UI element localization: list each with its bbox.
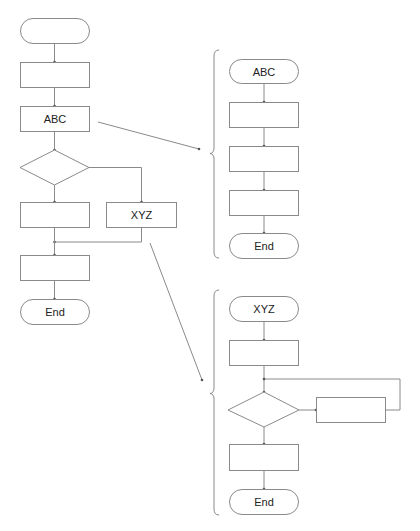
connector-xyz-merge <box>55 228 142 242</box>
node-label: ABC <box>44 113 67 125</box>
expand-xyz-arrow <box>150 243 202 380</box>
xyz-brace <box>210 290 219 515</box>
xyz-loop-process <box>316 397 386 423</box>
node-label: End <box>254 240 274 252</box>
flowchart-diagram: ABC XYZ End ABC End XYZ End <box>0 0 420 531</box>
node-label: End <box>254 496 274 508</box>
node-label: ABC <box>253 66 276 78</box>
node-label: XYZ <box>253 303 274 315</box>
expand-abc-arrow <box>98 122 199 149</box>
xyz-decision-diamond <box>228 392 299 427</box>
abc-process-1 <box>229 102 299 128</box>
main-process-branch-left <box>20 202 90 228</box>
xyz-process-1 <box>229 340 299 366</box>
abc-process-3 <box>229 190 299 216</box>
xyz-process-2 <box>229 444 299 471</box>
abc-process-2 <box>229 146 299 172</box>
main-end-terminator: End <box>20 299 90 325</box>
main-process-after-merge <box>20 255 90 281</box>
connector-decision-xyz <box>89 168 142 203</box>
main-process-xyz: XYZ <box>106 202 177 228</box>
main-process-1 <box>20 62 90 88</box>
abc-end-terminator: End <box>229 233 299 259</box>
xyz-start-terminator: XYZ <box>229 296 299 322</box>
decision-diamond <box>20 150 89 185</box>
main-start-terminator <box>20 18 90 44</box>
abc-brace <box>210 50 219 258</box>
main-process-abc: ABC <box>20 106 90 132</box>
abc-start-terminator: ABC <box>229 59 299 84</box>
node-label: XYZ <box>131 209 152 221</box>
node-label: End <box>45 306 65 318</box>
xyz-end-terminator: End <box>229 489 299 515</box>
